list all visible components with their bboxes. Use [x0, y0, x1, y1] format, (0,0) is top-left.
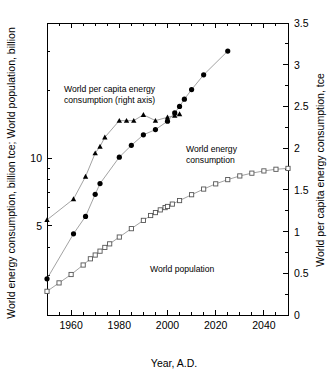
- data-point: [238, 174, 242, 178]
- data-point: [83, 214, 88, 219]
- data-point: [83, 174, 88, 179]
- y-right-tick-label: 2.5: [294, 100, 309, 112]
- series-0: [44, 111, 182, 222]
- series-line-0: [47, 114, 180, 220]
- data-point: [202, 187, 206, 191]
- population-annotation: World population: [150, 264, 215, 274]
- data-point: [286, 166, 290, 170]
- y-right-tick-label: 1.5: [294, 184, 309, 196]
- x-tick-label: 2020: [204, 319, 228, 331]
- data-point: [170, 202, 174, 206]
- data-point: [141, 112, 146, 117]
- y-axis-right-title: World per capita energy consumption, tce: [314, 73, 326, 267]
- data-point: [98, 249, 102, 253]
- data-point: [81, 263, 85, 267]
- y-right-tick-label: 0.5: [294, 267, 309, 279]
- y-right-tick-label: 3.5: [294, 17, 309, 29]
- data-point: [190, 193, 194, 197]
- data-point: [274, 167, 278, 171]
- data-point: [141, 218, 145, 222]
- data-point: [69, 272, 73, 276]
- per-capita-annotation: World per capita energyconsumption (righ…: [64, 84, 156, 105]
- data-point: [97, 144, 102, 149]
- x-tick-label: 2040: [252, 319, 276, 331]
- data-point: [88, 257, 92, 261]
- data-point: [250, 171, 254, 175]
- data-point: [165, 119, 170, 124]
- energy-consumption-annotation: World energyconsumption: [186, 144, 238, 165]
- data-point: [117, 155, 122, 160]
- data-point: [57, 281, 61, 285]
- data-point: [71, 196, 76, 201]
- y-left-tick-label: 10: [30, 152, 42, 164]
- y-right-tick-label: 0: [294, 309, 300, 321]
- data-point: [103, 245, 107, 249]
- data-point: [129, 227, 133, 231]
- data-point: [182, 97, 187, 102]
- data-point: [129, 143, 134, 148]
- data-point: [93, 192, 98, 197]
- data-point: [177, 198, 181, 202]
- data-point: [149, 213, 153, 217]
- data-point: [177, 111, 182, 116]
- data-point: [226, 178, 230, 182]
- data-point: [177, 104, 182, 109]
- x-axis-title: Year, A.D.: [151, 357, 197, 369]
- data-point: [45, 289, 49, 293]
- x-tick-label: 2000: [156, 319, 180, 331]
- data-point: [189, 87, 194, 92]
- data-point: [93, 253, 97, 257]
- data-point: [225, 48, 230, 53]
- data-point: [117, 235, 121, 239]
- data-point: [71, 231, 76, 236]
- energy-population-chart: 19601980200020202040 510 00.511.522.533.…: [0, 0, 334, 375]
- data-point: [201, 72, 206, 77]
- series-2: [45, 166, 290, 293]
- data-point: [44, 276, 49, 281]
- y-right-tick-label: 2: [294, 142, 300, 154]
- x-tick-label: 1980: [108, 319, 132, 331]
- y-right-tick-label: 1: [294, 226, 300, 238]
- data-point: [108, 242, 112, 246]
- y-right-tick-label: 3: [294, 59, 300, 71]
- data-point: [172, 110, 177, 115]
- y-axis-right-tick-labels: 00.511.522.533.5: [294, 17, 309, 321]
- data-point: [153, 210, 157, 214]
- x-axis-tick-labels: 19601980200020202040: [59, 319, 275, 331]
- data-point: [262, 169, 266, 173]
- x-tick-label: 1960: [59, 319, 83, 331]
- data-point: [141, 132, 146, 137]
- data-point: [165, 204, 169, 208]
- data-point: [214, 182, 218, 186]
- y-left-tick-label: 5: [36, 220, 42, 232]
- chart-page: 19601980200020202040 510 00.511.522.533.…: [0, 0, 334, 375]
- data-point: [153, 127, 158, 132]
- annotations-layer: World per capita energyconsumption (righ…: [64, 84, 238, 274]
- y-axis-left-tick-labels: 510: [30, 152, 42, 232]
- data-point: [158, 208, 162, 212]
- data-point: [97, 181, 102, 186]
- y-axis-left-title: World energy consumption, billion tce; W…: [5, 27, 17, 319]
